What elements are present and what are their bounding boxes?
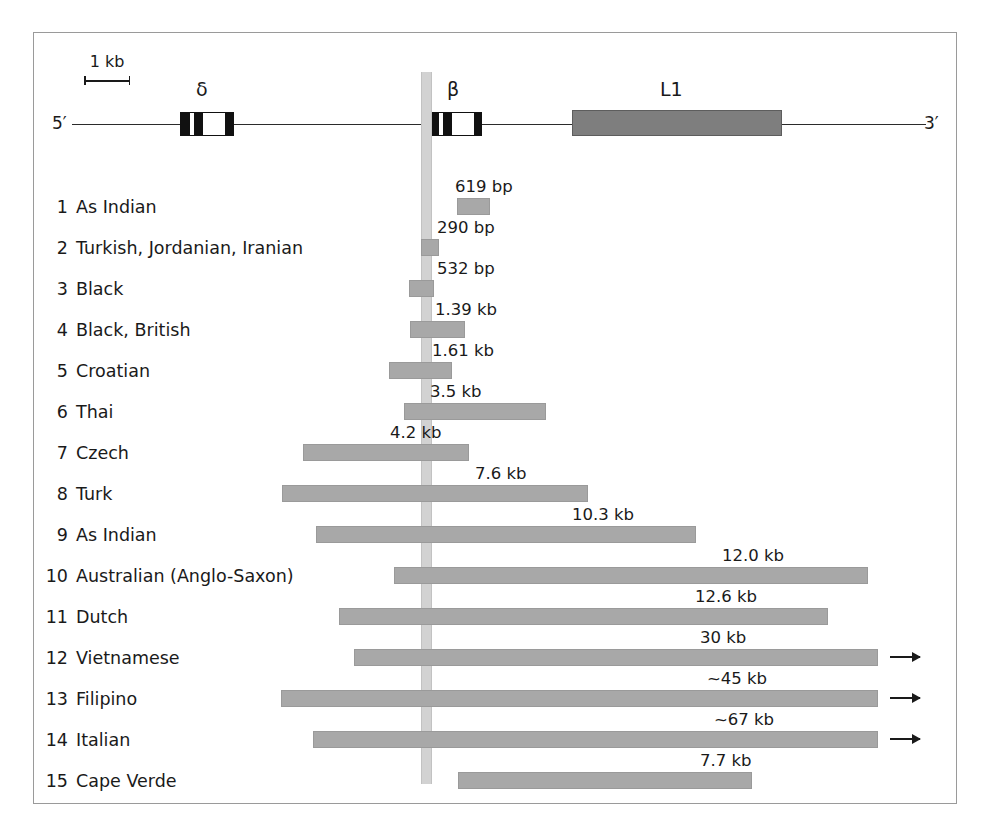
deletion-size-label: ~67 kb [714,710,774,729]
deletion-size-label: ~45 kb [707,669,767,688]
deletion-size-label: 7.6 kb [475,464,527,483]
deletion-size-label: 532 bp [437,259,495,278]
deletion-bar [389,362,452,379]
population-label: As Indian [76,197,157,217]
deletion-bar [313,731,878,748]
population-label: Cape Verde [76,771,177,791]
deletion-rows: 1As Indian619 bp2Turkish, Jordanian, Ira… [0,0,985,829]
table-row: 11Dutch12.6 kb [0,596,985,637]
population-label: Thai [76,402,113,422]
population-label: As Indian [76,525,157,545]
population-label: Czech [76,443,129,463]
row-number: 2 [32,238,68,258]
table-row: 15Cape Verde7.7 kb [0,760,985,801]
deletion-size-label: 12.0 kb [722,546,784,565]
table-row: 9As Indian10.3 kb [0,514,985,555]
deletion-size-label: 1.61 kb [432,341,494,360]
population-label: Dutch [76,607,128,627]
population-label: Croatian [76,361,150,381]
deletion-bar [404,403,546,420]
table-row: 13Filipino~45 kb [0,678,985,719]
row-number: 4 [32,320,68,340]
row-number: 8 [32,484,68,504]
deletion-bar [303,444,469,461]
population-label: Vietnamese [76,648,180,668]
row-number: 10 [32,566,68,586]
deletion-size-label: 10.3 kb [572,505,634,524]
row-number: 13 [32,689,68,709]
table-row: 10Australian (Anglo-Saxon)12.0 kb [0,555,985,596]
row-number: 14 [32,730,68,750]
row-number: 5 [32,361,68,381]
row-number: 12 [32,648,68,668]
deletion-size-label: 7.7 kb [700,751,752,770]
table-row: 12Vietnamese30 kb [0,637,985,678]
deletion-size-label: 1.39 kb [435,300,497,319]
row-number: 11 [32,607,68,627]
deletion-bar [316,526,696,543]
row-number: 15 [32,771,68,791]
deletion-size-label: 4.2 kb [390,423,442,442]
deletion-bar [282,485,588,502]
population-label: Black, British [76,320,190,340]
continues-arrow-icon [890,738,920,740]
population-label: Turkish, Jordanian, Iranian [76,238,303,258]
deletion-size-label: 12.6 kb [695,587,757,606]
row-number: 9 [32,525,68,545]
population-label: Italian [76,730,130,750]
continues-arrow-icon [890,656,920,658]
continues-arrow-icon [890,697,920,699]
table-row: 6Thai3.5 kb [0,391,985,432]
deletion-bar [457,198,490,215]
deletion-size-label: 30 kb [700,628,746,647]
row-number: 3 [32,279,68,299]
deletion-size-label: 3.5 kb [430,382,482,401]
population-label: Black [76,279,123,299]
population-label: Filipino [76,689,137,709]
population-label: Australian (Anglo-Saxon) [76,566,294,586]
table-row: 8Turk7.6 kb [0,473,985,514]
row-number: 1 [32,197,68,217]
deletion-bar [458,772,752,789]
deletion-size-label: 290 bp [437,218,495,237]
deletion-bar [339,608,828,625]
deletion-bar [281,690,878,707]
deletion-bar [394,567,868,584]
deletion-bar [421,239,439,256]
deletion-bar [354,649,878,666]
deletion-bar [410,321,465,338]
deletion-size-label: 619 bp [455,177,513,196]
row-number: 7 [32,443,68,463]
table-row: 14Italian~67 kb [0,719,985,760]
row-number: 6 [32,402,68,422]
table-row: 5Croatian1.61 kb [0,350,985,391]
population-label: Turk [76,484,112,504]
deletion-bar [409,280,434,297]
